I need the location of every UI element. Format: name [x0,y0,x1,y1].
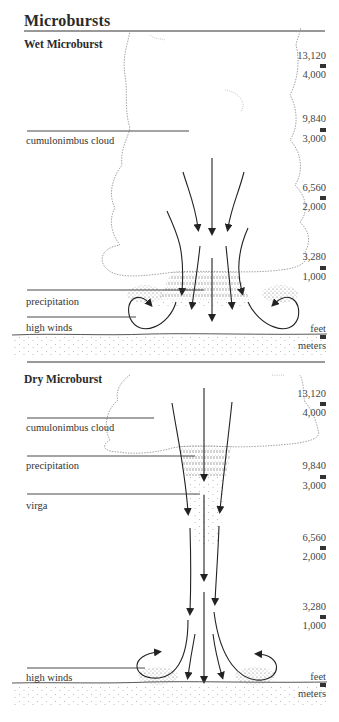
dry-microburst-heading: Dry Microburst [24,373,102,385]
scale-tick [320,128,326,132]
wet-scale-meters-3000: 3,000 [266,133,326,144]
wet-unit-feet: feet [266,323,326,334]
dry-unit-meters: meters [266,688,326,699]
wet-scale-meters-2000: 2,000 [266,201,326,212]
dry-scale-feet-13120: 13,120 [266,388,326,399]
dry-label-precipitation: precipitation [26,460,79,471]
dry-scale-meters-3000: 3,000 [266,480,326,491]
page-title: Microbursts [24,12,110,30]
wet-scale-feet-13120: 13,120 [266,50,326,61]
dry-scale-meters-1000: 1,000 [266,620,326,631]
wet-scale-meters-4000: 4,000 [266,69,326,80]
wet-label-high-winds: high winds [26,322,72,333]
dry-scale-meters-2000: 2,000 [266,551,326,562]
microburst-illustration [0,0,339,722]
wet-cloud-outline [102,28,308,276]
wet-scale-meters-1000: 1,000 [266,271,326,282]
scale-tick [320,546,326,550]
wet-label-precipitation: precipitation [26,296,79,307]
scale-tick [320,402,326,406]
dry-scale-meters-4000: 4,000 [266,407,326,418]
dry-unit-feet: feet [266,671,326,682]
scale-tick [320,266,326,270]
scale-tick [320,683,326,687]
scale-tick [320,64,326,68]
dry-scale-feet-9840: 9,840 [266,460,326,471]
wet-scale-feet-6560: 6,560 [266,182,326,193]
scale-tick [320,196,326,200]
wet-unit-meters: meters [266,340,326,351]
wet-scale-feet-3280: 3,280 [266,251,326,262]
scale-tick [320,615,326,619]
dry-label-high-winds: high winds [26,672,72,683]
wet-label-cloud: cumulonimbus cloud [26,135,114,146]
dry-scale-feet-6560: 6,560 [266,532,326,543]
wet-microburst-heading: Wet Microburst [24,38,103,50]
scale-tick [320,335,326,339]
dry-scale-feet-3280: 3,280 [266,601,326,612]
scale-tick [320,475,326,479]
wet-scale-feet-9840: 9,840 [266,113,326,124]
dry-label-virga: virga [26,500,47,511]
dry-label-cloud: cumulonimbus cloud [26,422,114,433]
